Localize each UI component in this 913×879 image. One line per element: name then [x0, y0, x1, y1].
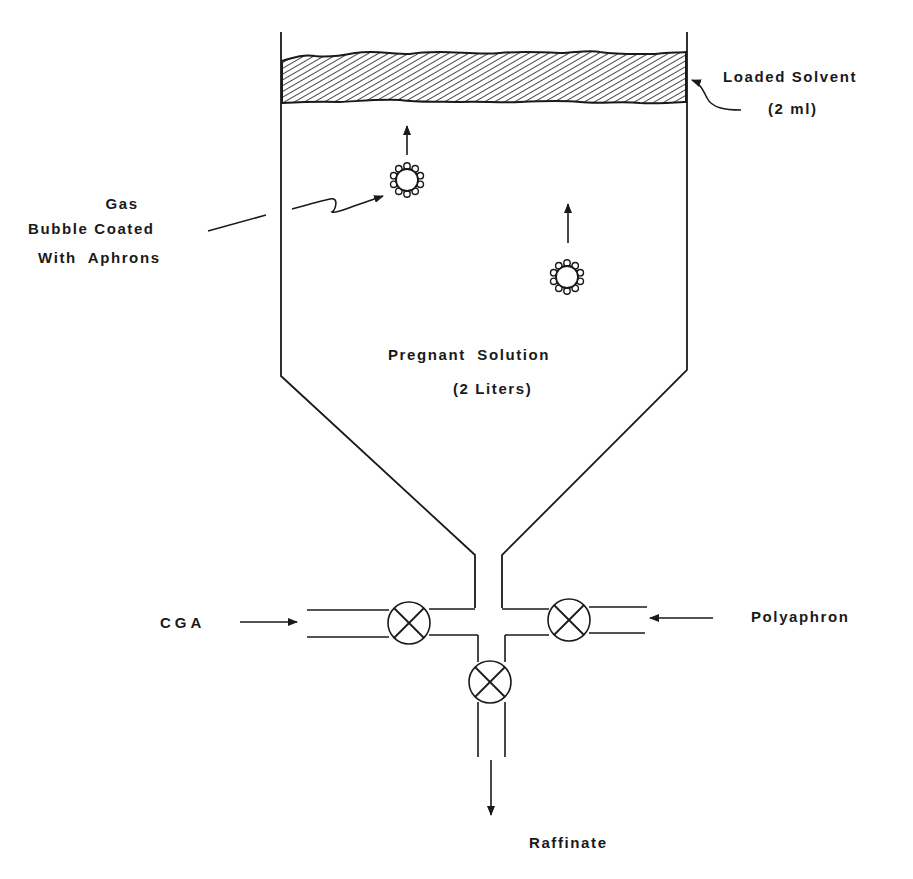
valve-raffinate — [469, 661, 511, 703]
column-vessel — [281, 32, 687, 608]
aphron-bubble-1 — [391, 126, 424, 197]
gas-bubble-leader — [208, 196, 383, 231]
loaded-solvent-volume-label: (2 ml) — [768, 101, 818, 116]
vessel-right-wall — [502, 32, 687, 608]
polyaphron-inlet-label: Polyaphron — [751, 609, 850, 624]
cga-inlet-label: CGA — [160, 615, 205, 630]
valve-cga — [388, 602, 430, 644]
flotation-column-diagram — [0, 0, 913, 879]
raffinate-outlet-label: Raffinate — [529, 835, 608, 850]
pregnant-solution-label: Pregnant Solution — [388, 347, 550, 362]
loaded-solvent-label: Loaded Solvent — [723, 69, 857, 84]
pregnant-solution-volume-label: (2 Liters) — [453, 381, 532, 396]
loaded-solvent-layer — [282, 51, 686, 103]
gas-bubble-label-line1: Gas — [72, 196, 172, 211]
gas-bubble-label-line2: Bubble Coated — [28, 221, 155, 236]
aphron-bubble-2 — [551, 204, 584, 294]
valve-polyaphron — [548, 599, 590, 641]
vessel-left-wall — [281, 32, 475, 608]
gas-bubble-label-line3: With Aphrons — [38, 250, 161, 265]
